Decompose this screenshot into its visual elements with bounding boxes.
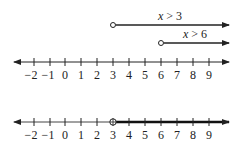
tick-label: 2 [94, 128, 100, 142]
tick-label: −2 [25, 128, 38, 142]
tick-label: 5 [142, 128, 148, 142]
number-line-diagram: x > 3 x > 6 −2 −1 0 1 2 3 4 5 6 7 8 [0, 0, 244, 161]
tick-label: 6 [158, 128, 164, 142]
open-circle-icon [111, 23, 116, 28]
tick-label: 4 [126, 128, 132, 142]
tick-label: 2 [94, 68, 100, 82]
tick-label: 7 [174, 68, 180, 82]
bottom-number-line: −2 −1 0 1 2 3 4 5 6 7 8 9 [14, 118, 229, 142]
top-number-line: −2 −1 0 1 2 3 4 5 6 7 8 9 [14, 58, 229, 82]
tick-label: 9 [206, 128, 212, 142]
tick-label: 0 [62, 128, 68, 142]
tick-label: 3 [110, 128, 116, 142]
tick-label: 5 [142, 68, 148, 82]
ray-label: x > 3 [157, 9, 182, 23]
tick-label: 0 [62, 68, 68, 82]
ray-x-greater-6: x > 6 [159, 27, 230, 46]
tick-label: 4 [126, 68, 132, 82]
tick-label: 8 [190, 68, 196, 82]
tick-label: 3 [110, 68, 116, 82]
tick-label: 7 [174, 128, 180, 142]
tick-label: 1 [78, 128, 84, 142]
tick-label: −1 [42, 68, 55, 82]
tick-label: 8 [190, 128, 196, 142]
ray-label: x > 6 [182, 27, 207, 41]
open-circle-icon [110, 118, 116, 126]
tick-label: 9 [206, 68, 212, 82]
tick-label: 6 [158, 68, 164, 82]
tick-label: −2 [25, 68, 38, 82]
tick-label: −1 [42, 128, 55, 142]
tick-label: 1 [78, 68, 84, 82]
ray-x-greater-3: x > 3 [111, 9, 230, 28]
open-circle-icon [159, 41, 164, 46]
